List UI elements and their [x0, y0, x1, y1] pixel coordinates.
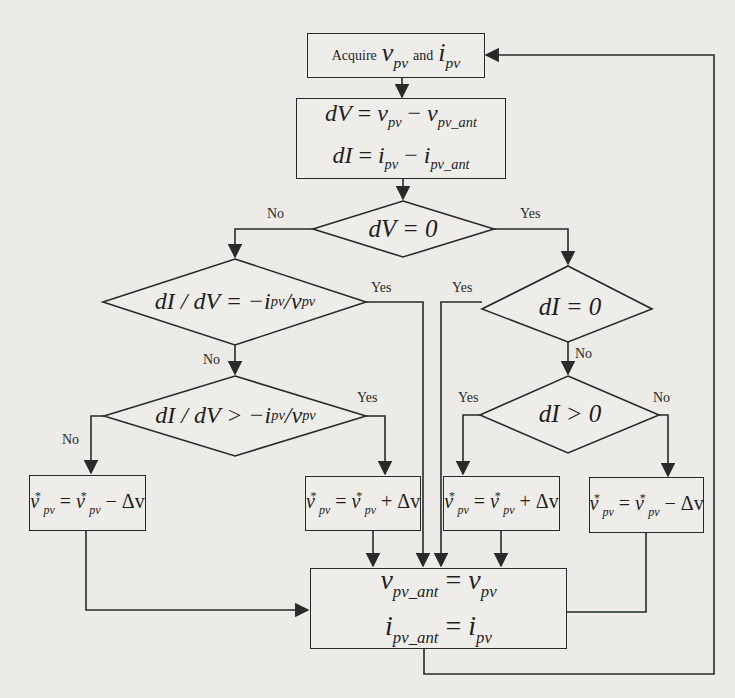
- acquire-box: Acquire vpv and ipv: [307, 33, 485, 78]
- edge-di-gt-yes: [463, 415, 480, 474]
- acquire-i: ipv: [438, 38, 460, 72]
- edge-di-gt-no: [659, 415, 668, 476]
- acquire-label: Acquire: [332, 48, 377, 64]
- label-didv-eq-no: No: [203, 352, 220, 368]
- calc-dv-line: dV = vpv − vpv_ant: [325, 97, 477, 138]
- acquire-v: vpv: [382, 38, 408, 72]
- edge-dec-left-update: [86, 530, 308, 610]
- dv-zero-text: dV = 0: [333, 212, 473, 246]
- acquire-and: and: [413, 48, 433, 64]
- di-zero-text: dI = 0: [510, 290, 630, 324]
- label-di-zero-yes: Yes: [452, 280, 472, 296]
- calc-di-line: dI = ipv − ipv_ant: [332, 139, 469, 180]
- edge-didv-gt-no: [91, 416, 104, 473]
- calc-box: dV = vpv − vpv_ant dI = ipv − ipv_ant: [296, 98, 506, 179]
- update-previous-box: vpv_ant = vpv ipv_ant = ipv: [310, 568, 567, 649]
- label-di-zero-no: No: [575, 346, 592, 362]
- edge-dv-no: [235, 229, 313, 257]
- edge-dv-yes: [494, 229, 568, 264]
- di-gt-text: dI > 0: [510, 397, 630, 431]
- didv-eq-text: dI / dV = −ipv / vpv: [120, 284, 350, 318]
- decrement-right-box: v*pv = v*pv − Δv: [589, 477, 704, 533]
- edge-didv-gt-yes: [366, 416, 385, 474]
- increment-right-box: v*pv = v*pv + Δv: [443, 476, 560, 531]
- label-didv-gt-no: No: [62, 432, 79, 448]
- label-dv-no: No: [267, 206, 284, 222]
- update-v-line: vpv_ant = vpv: [380, 563, 496, 609]
- label-didv-eq-yes: Yes: [371, 280, 391, 296]
- didv-gt-text: dI / dV > −ipv / vpv: [118, 398, 353, 432]
- label-di-gt-yes: Yes: [458, 390, 478, 406]
- label-dv-yes: Yes: [520, 206, 540, 222]
- decrement-left-box: v*pv = v*pv − Δv: [29, 475, 146, 531]
- label-didv-gt-yes: Yes: [357, 390, 377, 406]
- update-i-line: ipv_ant = ipv: [385, 609, 492, 655]
- label-di-gt-no: No: [653, 390, 670, 406]
- increment-mid-box: v*pv = v*pv + Δv: [305, 476, 421, 531]
